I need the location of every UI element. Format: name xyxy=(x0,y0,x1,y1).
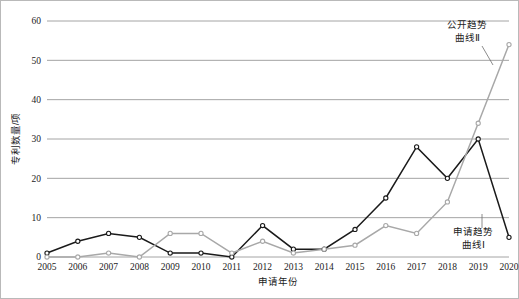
x-tick-label-2016: 2016 xyxy=(376,262,395,272)
line-chart: 0102030405060200520062007200820092010201… xyxy=(1,1,519,299)
annotation-series-1-line2: 曲线Ⅰ xyxy=(462,239,485,250)
series-2-marker-2009 xyxy=(168,231,172,235)
series-2-marker-2010 xyxy=(199,231,203,235)
series-2-marker-2020 xyxy=(507,43,511,47)
series-2-marker-2007 xyxy=(107,251,111,255)
x-tick-label-2009: 2009 xyxy=(161,262,180,272)
y-tick-label-10: 10 xyxy=(32,213,42,223)
y-tick-label-40: 40 xyxy=(32,95,42,105)
series-2-marker-2014 xyxy=(322,247,326,251)
series-1-marker-2016 xyxy=(384,196,388,200)
x-tick-label-2019: 2019 xyxy=(469,262,488,272)
x-tick-label-2015: 2015 xyxy=(346,262,365,272)
x-tick-label-2012: 2012 xyxy=(253,262,272,272)
series-1-marker-2015 xyxy=(353,227,357,231)
annotation-series-2-line2: 曲线Ⅱ xyxy=(455,32,480,43)
x-tick-label-2011: 2011 xyxy=(222,262,241,272)
series-2-marker-2013 xyxy=(291,251,295,255)
x-tick-label-2013: 2013 xyxy=(284,262,303,272)
y-tick-label-50: 50 xyxy=(32,56,42,66)
series-1-marker-2012 xyxy=(261,223,265,227)
series-2-marker-2018 xyxy=(445,200,449,204)
series-line-2 xyxy=(47,45,509,257)
x-tick-label-2018: 2018 xyxy=(438,262,457,272)
x-tick-label-2005: 2005 xyxy=(38,262,57,272)
x-tick-label-2007: 2007 xyxy=(99,262,118,272)
annotation-series-2-leader xyxy=(482,46,493,65)
series-2-marker-2012 xyxy=(261,239,265,243)
series-1-marker-2009 xyxy=(168,251,172,255)
series-1-marker-2007 xyxy=(107,231,111,235)
series-2-marker-2019 xyxy=(476,121,480,125)
series-1-marker-2019 xyxy=(476,137,480,141)
series-1-marker-2020 xyxy=(507,235,511,239)
series-2-marker-2016 xyxy=(384,223,388,227)
series-1-marker-2008 xyxy=(137,235,141,239)
x-tick-label-2006: 2006 xyxy=(68,262,87,272)
series-2-marker-2017 xyxy=(415,231,419,235)
series-1-marker-2010 xyxy=(199,251,203,255)
y-tick-label-20: 20 xyxy=(32,174,42,184)
series-1-marker-2017 xyxy=(415,145,419,149)
chart-frame: 0102030405060200520062007200820092010201… xyxy=(0,0,519,299)
series-1-marker-2006 xyxy=(76,239,80,243)
x-axis-title: 申请年份 xyxy=(258,276,298,287)
series-2-marker-2008 xyxy=(137,255,141,259)
annotation-series-2-line1: 公开趋势 xyxy=(447,19,487,30)
series-2-marker-2006 xyxy=(76,255,80,259)
y-tick-label-0: 0 xyxy=(36,252,41,262)
x-tick-label-2017: 2017 xyxy=(407,262,426,272)
x-tick-label-2014: 2014 xyxy=(315,262,334,272)
series-2-marker-2011 xyxy=(230,251,234,255)
series-line-1 xyxy=(47,139,509,257)
y-tick-label-60: 60 xyxy=(32,16,42,26)
x-tick-label-2008: 2008 xyxy=(130,262,149,272)
series-1-marker-2018 xyxy=(445,176,449,180)
y-axis-title: 专利数量/项 xyxy=(10,113,21,166)
annotation-series-1-line1: 申请趋势 xyxy=(453,226,493,237)
chart-svg: 0102030405060200520062007200820092010201… xyxy=(1,1,519,299)
y-tick-label-30: 30 xyxy=(32,134,42,144)
x-tick-label-2010: 2010 xyxy=(192,262,211,272)
series-2-marker-2015 xyxy=(353,243,357,247)
x-tick-label-2020: 2020 xyxy=(500,262,519,272)
series-2-marker-2005 xyxy=(45,255,49,259)
